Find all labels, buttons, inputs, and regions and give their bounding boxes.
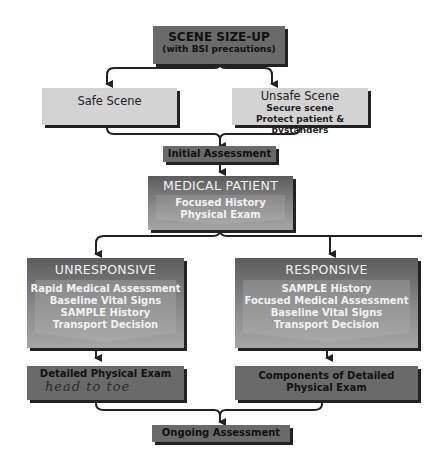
connector-safe-initial bbox=[107, 124, 220, 146]
node-unresponsive: UNRESPONSIVE Rapid Medical Assessment Ba… bbox=[27, 258, 184, 348]
connector-detailed-ongoing bbox=[96, 400, 220, 422]
responsive-title: RESPONSIVE bbox=[235, 262, 418, 277]
responsive-line-1: SAMPLE History bbox=[235, 283, 418, 295]
unresponsive-line-4: Transport Decision bbox=[27, 319, 184, 331]
initial-assessment-title: Initial Assessment bbox=[163, 148, 276, 160]
connector-sizeup-unsafe bbox=[220, 64, 272, 84]
connector-sizeup-safe bbox=[107, 64, 220, 84]
scene-sizeup-subtitle: (with BSI precautions) bbox=[153, 44, 285, 55]
node-unsafe-scene: Unsafe Scene Secure scene Protect patien… bbox=[232, 88, 368, 125]
medical-patient-title: MEDICAL PATIENT bbox=[148, 178, 293, 193]
unresponsive-line-1: Rapid Medical Assessment bbox=[27, 283, 184, 295]
node-safe-scene: Safe Scene bbox=[42, 88, 177, 125]
scene-sizeup-title: SCENE SIZE-UP bbox=[153, 30, 285, 44]
medical-patient-line-1: Focused History bbox=[148, 197, 293, 209]
handwritten-note: head to toe bbox=[45, 379, 130, 394]
node-scene-sizeup: SCENE SIZE-UP (with BSI precautions) bbox=[153, 26, 285, 64]
unsafe-scene-line-2: Protect patient & bystanders bbox=[232, 114, 368, 136]
unsafe-scene-title: Unsafe Scene bbox=[232, 90, 368, 103]
unresponsive-title: UNRESPONSIVE bbox=[27, 262, 184, 277]
unresponsive-line-3: SAMPLE History bbox=[27, 307, 184, 319]
responsive-line-3: Baseline Vital Signs bbox=[235, 307, 418, 319]
connector-medical-responsive bbox=[220, 230, 422, 236]
node-initial-assessment: Initial Assessment bbox=[163, 146, 276, 162]
ongoing-assessment-title: Ongoing Assessment bbox=[152, 427, 290, 439]
safe-scene-title: Safe Scene bbox=[42, 94, 177, 108]
node-medical-patient: MEDICAL PATIENT Focused History Physical… bbox=[148, 176, 293, 230]
connector-medical-unresponsive bbox=[96, 230, 220, 254]
node-detailed-exam: Detailed Physical Exam head to toe bbox=[27, 366, 184, 400]
connector-components-ongoing bbox=[220, 400, 322, 416]
components-exam-title-1: Components of Detailed bbox=[235, 370, 418, 382]
node-components-exam: Components of Detailed Physical Exam bbox=[235, 366, 418, 400]
node-responsive: RESPONSIVE SAMPLE History Focused Medica… bbox=[235, 258, 418, 348]
responsive-line-4: Transport Decision bbox=[235, 319, 418, 331]
unresponsive-line-2: Baseline Vital Signs bbox=[27, 295, 184, 307]
components-exam-title-2: Physical Exam bbox=[235, 382, 418, 394]
responsive-line-2: Focused Medical Assessment bbox=[235, 295, 418, 307]
node-ongoing-assessment: Ongoing Assessment bbox=[152, 425, 290, 442]
unsafe-scene-line-1: Secure scene bbox=[232, 103, 368, 114]
medical-patient-line-2: Physical Exam bbox=[148, 209, 293, 221]
